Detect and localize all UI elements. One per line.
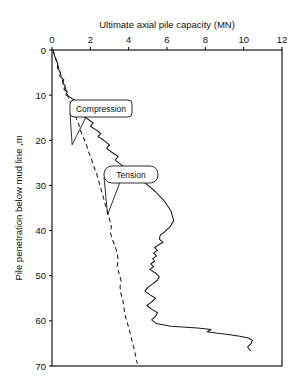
x-tick-label: 6: [164, 34, 169, 45]
tension-annotation: Tension: [104, 166, 158, 215]
compression-leader-line: [70, 113, 86, 145]
x-tick-label: 2: [88, 34, 93, 45]
y-tick-label: 10: [35, 90, 46, 101]
tension-curve: [53, 50, 137, 364]
y-tick-label: 0: [41, 45, 46, 56]
x-axis-ticks: 024681012: [49, 34, 287, 50]
x-tick-label: 12: [277, 34, 288, 45]
y-tick-label: 60: [35, 315, 46, 326]
y-tick-label: 20: [35, 135, 46, 146]
tension-callout-label: Tension: [116, 170, 146, 180]
y-axis-ticks: 010203040506070: [35, 45, 52, 372]
y-tick-label: 40: [35, 225, 46, 236]
y-tick-label: 50: [35, 270, 46, 281]
y-tick-label: 30: [35, 180, 46, 191]
chart-canvas: Ultimate axial pile capacity (MN) Pile p…: [0, 0, 297, 392]
compression-callout-label: Compression: [76, 104, 126, 114]
x-tick-label: 4: [126, 34, 131, 45]
compression-curve: [53, 50, 252, 351]
y-axis-title: Pile penetration below mud line ,m: [13, 135, 24, 280]
x-tick-label: 0: [49, 34, 54, 45]
y-tick-label: 70: [35, 361, 46, 372]
x-tick-label: 10: [238, 34, 249, 45]
pile-capacity-chart-figure: Ultimate axial pile capacity (MN) Pile p…: [0, 0, 297, 392]
x-axis-title: Ultimate axial pile capacity (MN): [99, 19, 235, 30]
plot-frame: [52, 50, 282, 366]
x-tick-label: 8: [203, 34, 208, 45]
